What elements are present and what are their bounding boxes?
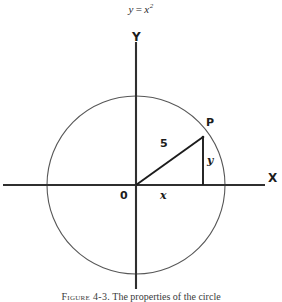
coordinate-diagram	[0, 0, 282, 302]
horizontal-leg-label: x	[160, 190, 167, 201]
vertical-leg-label: y	[207, 155, 213, 166]
figure-caption-text: The properties of the circle	[112, 291, 220, 302]
y-axis-label: Y	[132, 31, 141, 43]
radius-line	[136, 137, 203, 185]
point-p-marker	[202, 136, 205, 139]
figure-caption: Figure 4-3. The properties of the circle	[0, 291, 282, 302]
figure-container: y=x2 Y X P 5 y x 0 Figure 4-3. The prope…	[0, 0, 282, 302]
origin-label: 0	[120, 190, 128, 201]
point-p-label: P	[206, 117, 214, 128]
figure-caption-label: Figure 4-3.	[61, 291, 110, 302]
x-axis-label: X	[268, 172, 277, 184]
radius-length-label: 5	[160, 138, 168, 149]
